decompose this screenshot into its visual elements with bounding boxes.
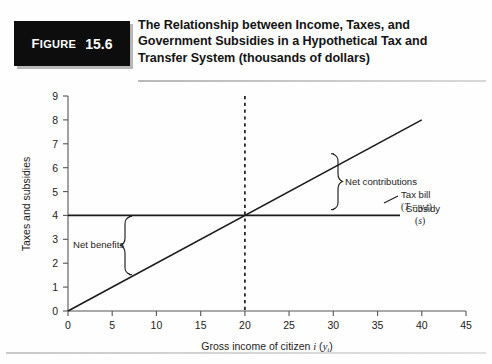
net-benefits-brace-ends (129, 216, 132, 274)
x-tick-0: 0 (65, 319, 71, 331)
y-tick-2: 2 (52, 257, 58, 269)
y-tick-8: 8 (52, 114, 58, 126)
x-tick-35: 35 (372, 319, 384, 331)
x-tick-labels: 0 5 10 15 20 25 30 35 40 45 (65, 319, 472, 331)
y-tick-6: 6 (52, 162, 58, 174)
y-tick-9: 9 (52, 90, 58, 102)
header-divider (138, 80, 486, 82)
figure-label-word: FIGURE (32, 36, 77, 51)
figure-number: 15.6 (85, 36, 112, 52)
subsidy-label: Subsidy (s) (406, 203, 440, 227)
y-axis-title: Taxes and subsidies (20, 157, 32, 252)
x-tick-20: 20 (239, 319, 251, 331)
y-tick-1: 1 (52, 281, 58, 293)
figure-header: FIGURE 15.6 The Relationship between Inc… (0, 0, 492, 88)
x-tick-15: 15 (195, 319, 207, 331)
x-tick-25: 25 (283, 319, 295, 331)
chart-svg: 9 8 7 6 5 4 3 2 1 0 0 5 10 15 20 25 30 3… (0, 88, 492, 354)
tax-bill-leader-line (384, 196, 398, 203)
y-axis (63, 96, 68, 311)
subsidy-label-line-1: Subsidy (406, 203, 440, 214)
x-tick-40: 40 (416, 319, 428, 331)
net-contributions-label: Net contributions (345, 176, 417, 187)
figure-number-badge: FIGURE 15.6 (14, 21, 130, 66)
y-tick-4: 4 (52, 209, 58, 221)
x-tick-5: 5 (109, 319, 115, 331)
chart-area: 9 8 7 6 5 4 3 2 1 0 0 5 10 15 20 25 30 3… (0, 88, 492, 354)
figure-title-line-3: Transfer System (thousands of dollars) (138, 50, 478, 66)
subsidy-label-line-2: (s) (415, 215, 425, 227)
y-tick-labels: 9 8 7 6 5 4 3 2 1 0 (52, 90, 58, 317)
x-axis (68, 311, 466, 316)
y-tick-7: 7 (52, 138, 58, 150)
x-tick-45: 45 (460, 319, 472, 331)
figure-title: The Relationship between Income, Taxes, … (138, 17, 478, 66)
tax-bill-label-line-1: Tax bill (401, 189, 430, 200)
y-tick-3: 3 (52, 233, 58, 245)
footer-divider (6, 352, 486, 354)
x-tick-30: 30 (327, 319, 339, 331)
net-benefits-label: Net benefits (73, 239, 124, 250)
net-contributions-brace (333, 154, 343, 209)
y-tick-5: 5 (52, 186, 58, 198)
x-tick-10: 10 (151, 319, 163, 331)
figure-title-line-2: Government Subsidies in a Hypothetical T… (138, 33, 478, 49)
net-contributions-brace-ends (331, 154, 334, 210)
y-tick-0: 0 (52, 305, 58, 317)
figure-title-line-1: The Relationship between Income, Taxes, … (138, 17, 478, 33)
